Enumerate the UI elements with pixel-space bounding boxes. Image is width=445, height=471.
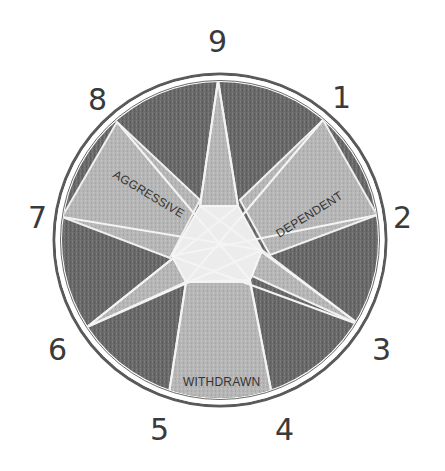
point-label-5: 5 xyxy=(150,412,169,447)
point-label-6: 6 xyxy=(48,332,67,367)
withdrawn-label: WITHDRAWN xyxy=(183,375,260,389)
point-label-9: 9 xyxy=(208,24,227,59)
point-label-1: 1 xyxy=(332,80,351,115)
enneagram-diagram: AGGRESSIVE DEPENDENT WITHDRAWN 9 1 2 3 4… xyxy=(0,0,445,471)
point-label-3: 3 xyxy=(372,332,391,367)
point-label-7: 7 xyxy=(28,200,47,235)
point-label-4: 4 xyxy=(275,412,294,447)
point-label-2: 2 xyxy=(393,200,412,235)
point-label-8: 8 xyxy=(88,82,107,117)
